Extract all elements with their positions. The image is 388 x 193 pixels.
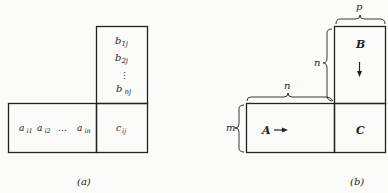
bnj-base: b (116, 83, 122, 94)
horizontal-ellipsis: … (58, 123, 67, 133)
matrix-b-label: B (355, 38, 365, 51)
dim-m-label: m (226, 122, 235, 133)
dim-n-horizontal-label: n (284, 80, 290, 91)
brace-n-vertical (323, 29, 332, 101)
svg-text:b2j: b2j (115, 52, 129, 65)
svg-text:b1j: b1j (115, 35, 129, 48)
column-b-entries: b1j b2j ⋮ bnj (115, 35, 132, 96)
brace-p (336, 15, 385, 24)
matrix-multiplication-diagram: b1j b2j ⋮ bnj ai1 ai2 … ain cij (a) p n … (0, 0, 388, 193)
dim-n-vertical-label: n (314, 57, 320, 68)
caption-b: (b) (350, 176, 364, 187)
brace-n-horizontal (247, 93, 333, 101)
vertical-ellipsis: ⋮ (120, 71, 129, 81)
b1j-sub: 1j (121, 40, 128, 48)
svg-text:ain: ain (77, 123, 91, 135)
caption-a: (a) (77, 176, 91, 187)
svg-text:ai1: ai1 (19, 123, 33, 135)
b2j-sub: 2j (120, 57, 128, 65)
bnj-sub: nj (124, 88, 132, 96)
right-arrow-icon (274, 128, 288, 133)
brace-m (235, 105, 244, 152)
down-arrow-icon (357, 62, 362, 77)
matrix-a-box (247, 104, 335, 153)
matrix-a-label: A (261, 124, 271, 137)
row-a-entries: ai1 ai2 … ain (19, 123, 91, 135)
svg-text:bnj: bnj (116, 83, 132, 96)
matrix-c-label: C (356, 124, 365, 137)
svg-text:ai2: ai2 (37, 123, 51, 135)
dim-p-label: p (356, 1, 363, 12)
cell-cij: cij (116, 123, 126, 135)
